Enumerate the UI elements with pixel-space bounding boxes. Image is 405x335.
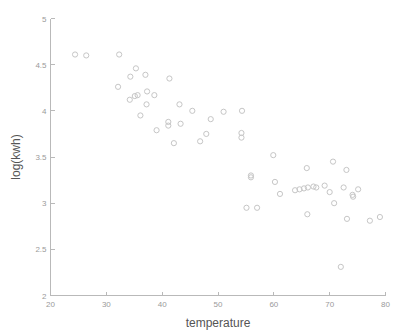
data-point (208, 117, 213, 122)
y-tick-label: 4 (42, 107, 47, 116)
data-point (377, 214, 382, 219)
y-tick-label: 2 (42, 292, 47, 301)
data-point (138, 113, 143, 118)
x-tick-label: 60 (269, 300, 278, 309)
x-tick-label: 50 (214, 300, 223, 309)
data-points-group (72, 52, 382, 270)
data-point (115, 84, 120, 89)
data-point (177, 102, 182, 107)
data-point (154, 128, 159, 133)
data-point (143, 72, 148, 77)
data-point (330, 159, 335, 164)
y-tick-label: 5 (42, 15, 47, 24)
x-tick-label: 40 (158, 300, 167, 309)
data-point (272, 179, 277, 184)
data-point (117, 52, 122, 57)
x-axis-title: temperature (186, 316, 251, 330)
data-point (178, 121, 183, 126)
data-point (128, 74, 133, 79)
data-point (239, 108, 244, 113)
data-point (304, 165, 309, 170)
y-tick-label: 3 (42, 199, 47, 208)
data-point (327, 189, 332, 194)
data-point (254, 205, 259, 210)
data-point (72, 52, 77, 57)
data-point (367, 218, 372, 223)
data-point (171, 141, 176, 146)
data-point (167, 76, 172, 81)
y-axis-title: log(kwh) (9, 134, 23, 179)
y-tick-label: 4.5 (35, 61, 47, 70)
y-tick-label: 3.5 (35, 153, 47, 162)
data-point (152, 93, 157, 98)
x-tick-label: 20 (46, 300, 55, 309)
figure-container: 2030405060708022.533.544.55 temperature … (0, 0, 405, 335)
x-tick-label: 70 (325, 300, 334, 309)
data-point (271, 153, 276, 158)
data-point (356, 187, 361, 192)
data-point (190, 108, 195, 113)
data-point (322, 183, 327, 188)
data-point (344, 167, 349, 172)
axes-group (51, 19, 386, 296)
data-point (127, 97, 132, 102)
y-tick-label: 2.5 (35, 245, 47, 254)
data-point (198, 139, 203, 144)
data-point (221, 109, 226, 114)
data-point (166, 123, 171, 128)
data-point (204, 131, 209, 136)
data-point (305, 212, 310, 217)
scatter-plot: 2030405060708022.533.544.55 temperature … (0, 0, 405, 335)
data-point (133, 66, 138, 71)
data-point (277, 191, 282, 196)
data-point (144, 89, 149, 94)
data-point (144, 102, 149, 107)
x-tick-label: 30 (102, 300, 111, 309)
x-tick-label: 80 (381, 300, 390, 309)
ticks-group: 2030405060708022.533.544.55 (35, 15, 390, 309)
data-point (84, 53, 89, 58)
data-point (332, 201, 337, 206)
data-point (344, 216, 349, 221)
data-point (244, 205, 249, 210)
data-point (338, 264, 343, 269)
data-point (341, 185, 346, 190)
